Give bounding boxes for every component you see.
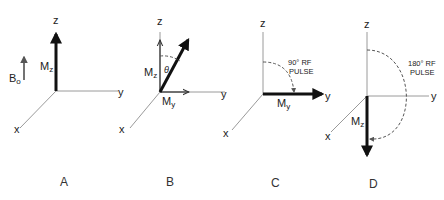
b0-label: Bo — [9, 72, 21, 86]
panel-label-b: B — [166, 175, 174, 189]
y-axis-label-a: y — [118, 86, 124, 98]
x-axis-label: x — [14, 123, 20, 135]
y-axis-label-c: y — [325, 90, 331, 102]
my-label: My — [277, 97, 290, 111]
mz-label: Mz — [144, 66, 157, 80]
z-axis-label: z — [364, 18, 370, 30]
my-label: My — [162, 95, 175, 109]
rf-pulse-diagram: Bo z x Mz A z x θ Mz My y B z x 9 — [0, 0, 444, 200]
panel-c: z x 90° RF PULSE My y C — [221, 17, 322, 190]
panel-label-d: D — [369, 177, 378, 191]
z-axis-label: z — [260, 17, 266, 29]
x-axis-label: x — [325, 130, 331, 142]
pulse-label-line1: 180° RF — [408, 59, 436, 68]
pulse-label-line1: 90° RF — [288, 58, 312, 67]
panel-a: Bo z x Mz A — [9, 14, 118, 189]
pulse-label-line2: PULSE — [289, 67, 314, 76]
rotation-arc-180 — [367, 50, 406, 139]
x-axis — [130, 92, 160, 128]
z-axis-label: z — [53, 14, 59, 26]
x-axis — [20, 91, 56, 128]
x-axis-label: x — [119, 123, 125, 135]
panel-d: z x y y 180° RF PULSE Mz D — [325, 18, 437, 191]
theta-label: θ — [164, 65, 169, 75]
pulse-label-line2: PULSE — [410, 68, 435, 77]
panel-label-a: A — [60, 175, 68, 189]
x-axis-label: x — [223, 127, 229, 139]
y-axis-label-d: y — [431, 90, 437, 102]
panel-b: z x θ Mz My y B — [118, 15, 225, 189]
x-axis — [232, 94, 263, 130]
mz-label: Mz — [351, 115, 364, 129]
panel-label-c: C — [271, 176, 280, 190]
z-axis-label: z — [157, 15, 163, 27]
y-axis-label-b: y — [221, 88, 227, 100]
mz-label: Mz — [40, 60, 53, 74]
